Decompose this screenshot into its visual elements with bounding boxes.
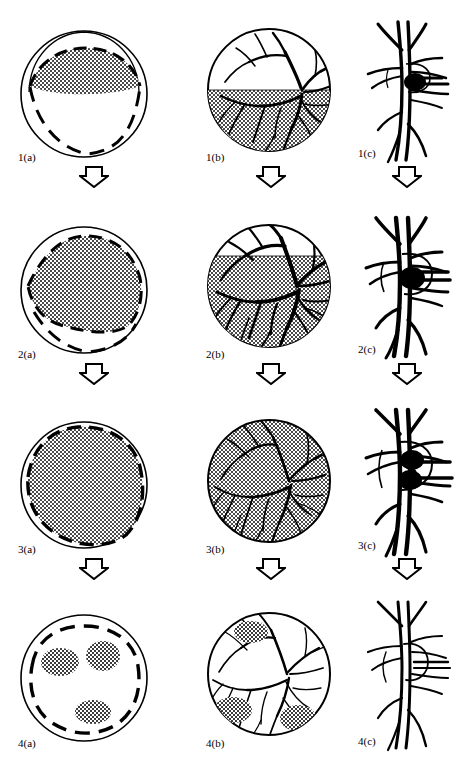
flow-arrow-b-1: [256, 166, 286, 188]
panel-3b-fundus-view: [205, 417, 337, 551]
panel-3c-vessel-detail: [358, 408, 454, 556]
panel-label-3a: 3(a): [18, 544, 36, 555]
panel-label-1a: 1(a): [18, 152, 36, 163]
flow-arrow-c-2: [392, 363, 422, 385]
panel-1a-globe-diagram: [16, 24, 152, 164]
panel-2a-globe-diagram: [16, 220, 152, 360]
flow-arrow-c-1: [392, 166, 422, 188]
panel-4a-globe-diagram: [16, 608, 152, 748]
panel-4c-vessel-detail: [358, 600, 454, 750]
panel-1c-vessel-detail: [358, 20, 454, 162]
flow-arrow-b-3: [256, 558, 286, 580]
panel-label-2a: 2(a): [18, 349, 36, 360]
flow-arrow-a-3: [79, 558, 109, 580]
flow-arrow-b-2: [256, 363, 286, 385]
panel-label-1b: 1(b): [206, 152, 224, 163]
panel-label-4b: 4(b): [206, 738, 224, 749]
flow-arrow-a-2: [79, 363, 109, 385]
panel-label-2b: 2(b): [206, 349, 224, 360]
flow-arrow-c-3: [392, 558, 422, 580]
panel-2c-vessel-detail: [358, 216, 454, 358]
panel-1b-fundus-view: [205, 26, 337, 160]
panel-label-3c: 3(c): [358, 540, 376, 551]
panel-label-1c: 1(c): [358, 148, 376, 159]
panel-label-4c: 4(c): [358, 736, 376, 747]
panel-2b-fundus-view: [205, 222, 337, 356]
panel-label-2c: 2(c): [358, 344, 376, 355]
flow-arrow-a-1: [79, 166, 109, 188]
panel-4b-fundus-view: [205, 610, 337, 744]
panel-label-4a: 4(a): [18, 738, 36, 749]
figure-root: 1(a): [0, 0, 462, 779]
panel-3a-globe-diagram: [16, 415, 152, 555]
panel-label-3b: 3(b): [206, 544, 224, 555]
